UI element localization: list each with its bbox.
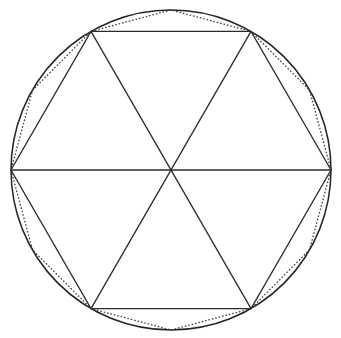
geometry-canvas <box>0 0 341 338</box>
geometry-figure <box>0 0 341 338</box>
hexagon-diameters <box>11 31 331 308</box>
